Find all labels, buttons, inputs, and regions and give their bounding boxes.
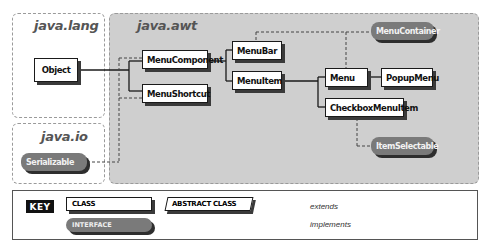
legend-interface: INTERFACE <box>66 218 152 232</box>
class-menu-item: MenuItem <box>232 71 282 90</box>
class-menu-shortcut: MenuShortcut <box>142 84 208 103</box>
interface-item-selectable: ItemSelectable <box>371 137 434 155</box>
class-object: Object <box>34 58 78 82</box>
class-menu: Menu <box>325 68 368 87</box>
legend-class: CLASS <box>66 197 152 211</box>
interface-serializable: Serializable <box>21 153 87 171</box>
legend-extends-label: extends <box>310 202 338 211</box>
class-checkbox-menu-item: CheckboxMenuItem <box>325 98 404 117</box>
class-popup-menu: PopupMenu <box>381 68 433 87</box>
class-menu-component: MenuComponent <box>142 50 208 69</box>
interface-menu-container: MenuContainer <box>371 22 434 40</box>
legend-key-label: KEY <box>26 200 54 213</box>
legend-abstract-class: ABSTRACT CLASS <box>165 197 254 211</box>
legend-implements-label: implements <box>310 220 351 229</box>
legend-abstract-class-label: ABSTRACT CLASS <box>172 200 236 208</box>
class-menu-bar: MenuBar <box>232 41 282 60</box>
